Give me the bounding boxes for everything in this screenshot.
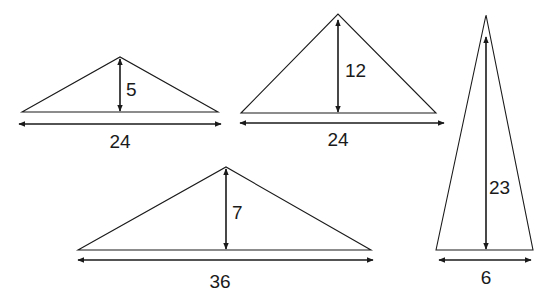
triangle-4-base-label: 36 (209, 271, 230, 292)
triangles-diagram: 5 24 12 24 23 6 7 36 (0, 0, 544, 302)
triangle-2-height-label: 12 (345, 60, 366, 81)
triangle-1: 5 24 (19, 57, 221, 152)
triangle-3-base-label: 6 (481, 267, 492, 288)
triangle-3: 23 6 (436, 15, 533, 288)
triangle-1-height-label: 5 (126, 79, 137, 100)
triangle-4: 7 36 (78, 167, 373, 292)
triangle-3-height-label: 23 (489, 177, 510, 198)
triangle-2-base-label: 24 (327, 129, 349, 150)
triangle-3-shape (436, 15, 533, 250)
triangle-2: 12 24 (240, 14, 444, 150)
triangle-4-shape (78, 167, 371, 250)
triangle-1-base-label: 24 (109, 131, 131, 152)
triangle-4-height-label: 7 (232, 202, 243, 223)
